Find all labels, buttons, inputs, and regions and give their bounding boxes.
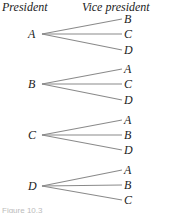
president-node: D: [28, 180, 37, 192]
branch-line: [42, 120, 122, 135]
vice-president-node: D: [124, 94, 133, 106]
vice-president-node: A: [124, 114, 131, 126]
vice-president-node: A: [124, 63, 131, 75]
branch-line: [42, 170, 122, 186]
branch-line: [42, 34, 122, 50]
vice-president-node: B: [124, 13, 131, 25]
tree-diagram: [0, 0, 170, 213]
vice-president-node: D: [124, 44, 133, 56]
branch-line: [42, 135, 122, 150]
president-node: C: [28, 129, 36, 141]
vice-president-node: C: [124, 78, 132, 90]
president-node: B: [28, 78, 35, 90]
branch-line: [42, 69, 122, 84]
branch-line: [42, 186, 122, 200]
vice-president-node: C: [124, 28, 132, 40]
vice-president-node: B: [124, 129, 131, 141]
branch-line: [42, 84, 122, 100]
figure-caption: Figure 10.3: [2, 206, 42, 213]
vice-president-node: C: [124, 194, 132, 206]
vice-president-node: A: [124, 164, 131, 176]
vice-president-node: B: [124, 179, 131, 191]
branch-line: [42, 185, 122, 186]
president-node: A: [28, 28, 35, 40]
vice-president-node: D: [124, 144, 133, 156]
branch-line: [42, 19, 122, 34]
